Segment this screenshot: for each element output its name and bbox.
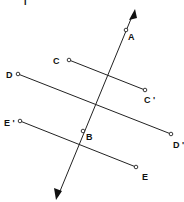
label-c: C (53, 56, 60, 66)
segment-c-c-prime (69, 60, 145, 90)
point-e (134, 165, 138, 169)
label-b: B (86, 132, 93, 142)
point-b (81, 129, 85, 133)
point-c (67, 58, 71, 62)
point-d-prime (169, 132, 173, 136)
point-d (16, 72, 20, 76)
transversal-line (58, 14, 133, 196)
label-d-prime: D ' (173, 140, 184, 150)
diagram-canvas: I A B C C ' D D ' E ' E (0, 0, 184, 202)
label-a: A (128, 32, 135, 42)
label-c-prime: C ' (144, 95, 155, 105)
arrowhead-up-icon (129, 9, 137, 20)
point-e-prime (18, 119, 22, 123)
point-c-prime (143, 88, 147, 92)
label-e: E (142, 172, 148, 182)
segment-e-prime-e (20, 121, 136, 167)
label-e-prime: E ' (4, 118, 15, 128)
stray-fragment: I (24, 0, 27, 7)
label-d: D (6, 70, 13, 80)
